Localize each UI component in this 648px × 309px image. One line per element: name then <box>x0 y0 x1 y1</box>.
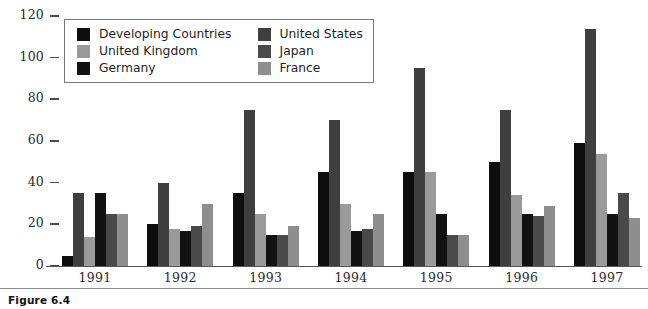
bar-japan-1995[interactable] <box>447 235 458 266</box>
y-axis-tick-label: 120 <box>20 7 44 22</box>
bar-developing-countries-1995[interactable] <box>403 172 414 266</box>
bar-developing-countries-1991[interactable] <box>62 256 73 266</box>
y-axis-tick-label: 20 <box>28 215 44 230</box>
bar-germany-1995[interactable] <box>436 214 447 266</box>
y-axis-tick-label: 40 <box>28 174 44 189</box>
x-axis-label-1994: 1994 <box>318 270 384 290</box>
y-axis-tick-mark <box>50 223 59 225</box>
bar-france-1995[interactable] <box>458 235 469 266</box>
x-axis-label-1992: 1992 <box>147 270 213 290</box>
y-axis-tick-label: 0 <box>36 257 44 272</box>
bar-france-1996[interactable] <box>544 206 555 266</box>
y-axis-tick-mark <box>50 182 59 184</box>
legend-swatch-icon <box>77 62 90 75</box>
bar-united-states-1996[interactable] <box>500 110 511 266</box>
legend-item-japan[interactable]: Japan <box>258 44 363 58</box>
x-axis-label-1993: 1993 <box>233 270 299 290</box>
bar-japan-1991[interactable] <box>106 214 117 266</box>
x-axis-label-1997: 1997 <box>574 270 640 290</box>
bar-united-states-1995[interactable] <box>414 68 425 266</box>
legend-swatch-icon <box>77 45 90 58</box>
legend-label: France <box>280 61 321 75</box>
y-axis-tick-mark <box>50 57 59 59</box>
y-axis-tick-label: 60 <box>28 132 44 147</box>
y-axis-tick-mark <box>50 98 59 100</box>
bar-developing-countries-1994[interactable] <box>318 172 329 266</box>
bar-united-states-1994[interactable] <box>329 120 340 266</box>
bar-united-kingdom-1996[interactable] <box>511 195 522 266</box>
bar-germany-1991[interactable] <box>95 193 106 266</box>
bar-germany-1993[interactable] <box>266 235 277 266</box>
legend-label: United Kingdom <box>99 44 198 58</box>
bar-developing-countries-1993[interactable] <box>233 193 244 266</box>
bar-united-kingdom-1993[interactable] <box>255 214 266 266</box>
legend-label: Developing Countries <box>99 27 232 41</box>
bar-japan-1997[interactable] <box>618 193 629 266</box>
chart-legend: Developing CountriesUnited StatesUnited … <box>64 19 374 83</box>
x-axis-label-1991: 1991 <box>62 270 128 290</box>
legend-label: Germany <box>99 61 156 75</box>
legend-label: Japan <box>280 44 314 58</box>
bar-france-1994[interactable] <box>373 214 384 266</box>
bar-developing-countries-1992[interactable] <box>147 224 158 266</box>
bar-france-1991[interactable] <box>117 214 128 266</box>
bar-developing-countries-1997[interactable] <box>574 143 585 266</box>
bar-japan-1992[interactable] <box>191 226 202 266</box>
legend-swatch-icon <box>77 28 90 41</box>
legend-swatch-icon <box>258 28 271 41</box>
bar-united-kingdom-1991[interactable] <box>84 237 95 266</box>
y-axis-tick-label: 100 <box>20 49 44 64</box>
bar-germany-1997[interactable] <box>607 214 618 266</box>
bar-group-1997 <box>574 16 640 266</box>
figure-caption: Figure 6.4 <box>8 294 70 306</box>
bar-united-states-1997[interactable] <box>585 29 596 267</box>
x-axis-label-1996: 1996 <box>489 270 555 290</box>
caption-divider <box>0 288 648 289</box>
bar-group-1995 <box>403 16 469 266</box>
bar-france-1993[interactable] <box>288 226 299 266</box>
bar-united-kingdom-1992[interactable] <box>169 229 180 267</box>
legend-label: United States <box>280 27 363 41</box>
bar-japan-1993[interactable] <box>277 235 288 266</box>
bar-germany-1992[interactable] <box>180 231 191 266</box>
bar-japan-1994[interactable] <box>362 229 373 267</box>
legend-item-germany[interactable]: Germany <box>77 61 232 75</box>
bar-united-states-1991[interactable] <box>73 193 84 266</box>
bar-france-1997[interactable] <box>629 218 640 266</box>
x-axis-labels: 1991199219931994199519961997 <box>62 270 640 290</box>
y-axis-tick-mark <box>50 140 59 142</box>
chart-area: 020406080100120 199119921993199419951996… <box>0 0 648 280</box>
legend-item-france[interactable]: France <box>258 61 363 75</box>
legend-swatch-icon <box>258 62 271 75</box>
bar-germany-1996[interactable] <box>522 214 533 266</box>
bar-united-kingdom-1995[interactable] <box>425 172 436 266</box>
bar-united-states-1992[interactable] <box>158 183 169 266</box>
bar-united-states-1993[interactable] <box>244 110 255 266</box>
bar-united-kingdom-1994[interactable] <box>340 204 351 267</box>
y-axis: 020406080100120 <box>0 16 62 266</box>
bar-japan-1996[interactable] <box>533 216 544 266</box>
bar-group-1996 <box>489 16 555 266</box>
bar-united-kingdom-1997[interactable] <box>596 154 607 267</box>
bar-france-1992[interactable] <box>202 204 213 267</box>
legend-item-united-states[interactable]: United States <box>258 27 363 41</box>
y-axis-tick-label: 80 <box>28 90 44 105</box>
y-axis-tick-mark <box>50 15 59 17</box>
legend-item-developing-countries[interactable]: Developing Countries <box>77 27 232 41</box>
figure-container: 020406080100120 199119921993199419951996… <box>0 0 648 309</box>
bar-germany-1994[interactable] <box>351 231 362 266</box>
legend-item-united-kingdom[interactable]: United Kingdom <box>77 44 232 58</box>
x-axis-label-1995: 1995 <box>403 270 469 290</box>
legend-swatch-icon <box>258 45 271 58</box>
x-axis-baseline <box>46 266 642 267</box>
bar-developing-countries-1996[interactable] <box>489 162 500 266</box>
